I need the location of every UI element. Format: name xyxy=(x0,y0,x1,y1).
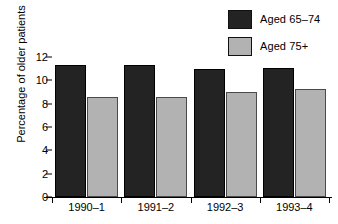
legend-label-aged-75-plus: Aged 75+ xyxy=(260,40,308,52)
x-tick-label: 1991–2 xyxy=(138,201,175,213)
legend-label-aged-65-74: Aged 65–74 xyxy=(260,13,320,25)
legend-swatch-aged-65-74 xyxy=(228,10,252,29)
y-tick-label: 4 xyxy=(42,144,48,156)
y-tick-label: 12 xyxy=(36,51,48,63)
bar xyxy=(263,68,294,198)
legend-swatch-aged-75-plus xyxy=(228,37,252,56)
bar xyxy=(156,97,187,197)
x-tick-mark xyxy=(260,197,261,203)
x-tick-label: 1993–4 xyxy=(276,201,313,213)
legend-item: Aged 65–74 xyxy=(228,8,320,30)
bar-group xyxy=(121,57,190,197)
x-axis-line xyxy=(44,197,332,198)
bar-group xyxy=(52,57,121,197)
bar xyxy=(87,97,118,197)
y-axis-title: Percentage of older patients xyxy=(15,0,27,149)
chart-legend: Aged 65–74 Aged 75+ xyxy=(228,8,320,62)
bar-group xyxy=(191,57,260,197)
x-tick-mark xyxy=(191,197,192,203)
bar xyxy=(124,65,155,197)
bar-group xyxy=(260,57,329,197)
bar xyxy=(226,92,257,197)
bar xyxy=(295,89,326,198)
plot-area: 024681012 xyxy=(52,57,329,197)
bar xyxy=(55,65,86,197)
x-tick-mark xyxy=(329,197,330,203)
y-tick-label: 6 xyxy=(42,121,48,133)
y-tick-label: 0 xyxy=(42,191,48,203)
bar xyxy=(194,69,225,197)
x-tick-mark xyxy=(121,197,122,203)
y-tick-label: 8 xyxy=(42,98,48,110)
bar-chart: Aged 65–74 Aged 75+ Percentage of older … xyxy=(0,0,338,224)
y-tick-label: 2 xyxy=(42,168,48,180)
x-tick-label: 1992–3 xyxy=(207,201,244,213)
x-tick-mark xyxy=(52,197,53,203)
y-tick-label: 10 xyxy=(36,74,48,86)
x-tick-label: 1990–1 xyxy=(68,201,105,213)
legend-item: Aged 75+ xyxy=(228,35,320,57)
